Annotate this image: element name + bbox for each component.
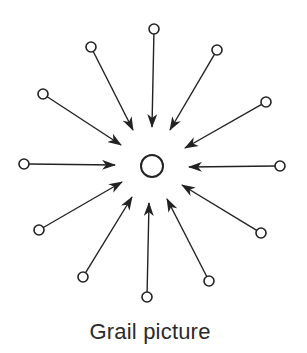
outer-node-top-right [212, 45, 222, 55]
outer-node-left-upper [38, 89, 48, 99]
nodes-group [19, 24, 285, 302]
outer-node-right [275, 161, 285, 171]
outer-node-left-lower [34, 225, 44, 235]
arrow-bottom [147, 203, 149, 292]
outer-node-right-upper [261, 97, 271, 107]
outer-node-top [149, 24, 159, 34]
arrow-right-upper [185, 104, 262, 148]
outer-node-right-lower [256, 228, 266, 238]
arrow-left [29, 164, 115, 165]
arrow-bottom-right [167, 199, 207, 277]
outer-node-bottom-right [204, 276, 214, 286]
edges-group [29, 34, 275, 292]
outer-node-left [19, 159, 29, 169]
arrow-left-upper [47, 97, 121, 145]
arrow-left-lower [43, 182, 122, 227]
outer-node-top-left [86, 42, 96, 52]
grail-diagram [0, 0, 307, 353]
diagram-caption: Grail picture [0, 319, 300, 345]
arrow-right [189, 166, 275, 167]
center-node-circle [141, 155, 163, 177]
outer-node-bottom-left [78, 272, 88, 282]
arrow-top-left [93, 51, 133, 130]
arrow-top-right [170, 54, 214, 130]
arrow-top [152, 34, 154, 127]
arrow-right-lower [182, 185, 257, 230]
arrow-bottom-left [86, 197, 132, 273]
outer-node-bottom [142, 292, 152, 302]
